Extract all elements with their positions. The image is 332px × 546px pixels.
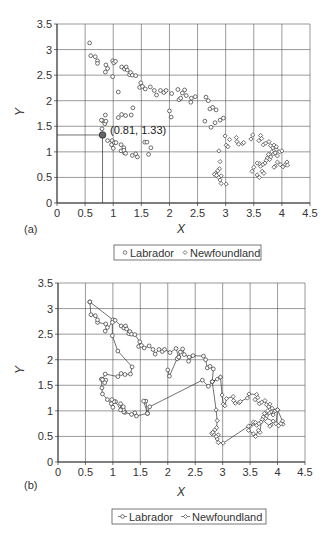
figure-canvas: 00.511.522.533.544.500.511.522.533.5 X Y… bbox=[0, 0, 332, 546]
data-points-a bbox=[88, 41, 290, 186]
data-point-labrador bbox=[206, 99, 210, 103]
x-tick-label: 1.5 bbox=[134, 207, 149, 219]
x-tick-label: 4.5 bbox=[302, 207, 317, 219]
data-point-labrador bbox=[184, 94, 188, 98]
data-point-labrador bbox=[116, 116, 120, 120]
data-point-labrador bbox=[193, 95, 197, 99]
data-points-b bbox=[88, 300, 285, 445]
data-point-labrador bbox=[130, 413, 134, 417]
data-point-labrador bbox=[181, 347, 185, 351]
data-point-labrador bbox=[110, 334, 114, 338]
data-point-labrador bbox=[106, 67, 110, 71]
data-point-labrador bbox=[214, 108, 218, 112]
data-point-labrador bbox=[93, 314, 97, 318]
annotation-label: (0.81, 1.33) bbox=[110, 124, 166, 136]
data-point-labrador bbox=[149, 146, 153, 150]
data-point-labrador bbox=[222, 116, 226, 120]
data-point-labrador bbox=[146, 412, 150, 416]
data-point-labrador bbox=[191, 354, 195, 358]
data-point-labrador bbox=[143, 87, 147, 91]
y-tick-label: 0.5 bbox=[37, 171, 52, 183]
x-tick-label: 2.5 bbox=[190, 207, 205, 219]
x-tick-label: 2 bbox=[165, 466, 171, 478]
data-point-labrador bbox=[109, 402, 113, 406]
data-point-newfoundland bbox=[234, 135, 238, 139]
x-tick-label: 1 bbox=[110, 207, 116, 219]
y-tick-label: 1 bbox=[47, 405, 53, 417]
data-point-labrador bbox=[103, 113, 107, 117]
y-tick-label: 3 bbox=[46, 44, 52, 56]
data-point-labrador bbox=[148, 85, 152, 89]
grid-lines-b bbox=[58, 283, 305, 462]
data-point-labrador bbox=[200, 378, 204, 382]
data-point-labrador bbox=[110, 398, 114, 402]
data-point-labrador bbox=[89, 54, 93, 58]
data-point-newfoundland bbox=[214, 408, 218, 412]
data-point-labrador bbox=[176, 88, 180, 92]
data-point-labrador bbox=[152, 89, 156, 93]
legend-label-labrador-b: Labrador bbox=[129, 511, 173, 523]
y-tick-label: 0 bbox=[47, 456, 53, 468]
data-point-labrador bbox=[89, 313, 93, 317]
data-point-labrador bbox=[119, 408, 123, 412]
x-tick-label: 0.5 bbox=[77, 207, 92, 219]
data-point-labrador bbox=[189, 100, 193, 104]
data-point-labrador bbox=[100, 118, 104, 122]
y-tick-label: 2 bbox=[46, 95, 52, 107]
data-point-newfoundland bbox=[231, 394, 235, 398]
y-tick-label: 0.5 bbox=[38, 430, 53, 442]
data-point-labrador bbox=[106, 139, 110, 143]
x-axis-label-a: X bbox=[176, 222, 186, 236]
data-point-labrador bbox=[138, 340, 142, 344]
x-tick-label: 3.5 bbox=[242, 466, 257, 478]
data-point-labrador bbox=[100, 386, 104, 390]
x-tick-label: 1 bbox=[110, 466, 116, 478]
data-point-newfoundland bbox=[218, 159, 222, 163]
data-point-labrador bbox=[182, 353, 186, 357]
data-point-labrador bbox=[116, 375, 120, 379]
data-point-labrador bbox=[213, 121, 217, 125]
data-point-labrador bbox=[93, 55, 97, 59]
data-point-labrador bbox=[142, 346, 146, 350]
data-point-newfoundland bbox=[221, 441, 225, 445]
data-point-labrador bbox=[114, 59, 118, 63]
tick-labels-a: 00.511.522.533.544.500.511.522.533.5 bbox=[37, 18, 318, 219]
data-point-labrador bbox=[170, 92, 174, 96]
data-point-labrador bbox=[129, 113, 133, 117]
annotation-guides-a bbox=[57, 135, 103, 203]
data-point-newfoundland bbox=[223, 134, 227, 138]
y-tick-label: 2.5 bbox=[37, 69, 52, 81]
chart-panel-b: 00.511.522.533.544.500.511.522.533.5 X Y… bbox=[13, 277, 313, 524]
data-point-labrador bbox=[119, 372, 123, 376]
data-point-newfoundland bbox=[220, 393, 224, 397]
x-tick-label: 0 bbox=[55, 466, 61, 478]
data-point-labrador bbox=[209, 125, 213, 129]
data-point-labrador bbox=[114, 141, 118, 145]
data-point-labrador bbox=[119, 402, 123, 406]
y-tick-label: 2 bbox=[47, 354, 53, 366]
data-point-labrador bbox=[125, 68, 129, 72]
data-point-labrador bbox=[119, 143, 123, 147]
data-point-labrador bbox=[101, 392, 105, 396]
data-point-newfoundland bbox=[224, 396, 228, 400]
data-point-labrador bbox=[135, 155, 139, 159]
data-point-labrador bbox=[131, 106, 135, 110]
data-point-labrador bbox=[103, 372, 107, 376]
data-point-labrador bbox=[163, 348, 167, 352]
data-point-labrador bbox=[104, 322, 108, 326]
x-tick-label: 3 bbox=[223, 207, 229, 219]
y-axis-label-b: Y bbox=[13, 365, 27, 374]
data-point-labrador bbox=[96, 318, 100, 322]
data-point-labrador bbox=[111, 75, 115, 79]
data-point-labrador bbox=[104, 63, 108, 67]
data-point-labrador bbox=[124, 114, 128, 118]
data-point-labrador bbox=[145, 140, 149, 144]
data-point-labrador bbox=[130, 365, 134, 369]
data-point-labrador bbox=[96, 61, 100, 65]
y-tick-label: 3.5 bbox=[37, 18, 52, 30]
legend-marker-labrador-a bbox=[123, 251, 127, 255]
x-tick-label: 3 bbox=[220, 466, 226, 478]
data-point-labrador bbox=[202, 354, 206, 358]
data-point-labrador bbox=[155, 93, 159, 97]
data-point-labrador bbox=[187, 355, 191, 359]
